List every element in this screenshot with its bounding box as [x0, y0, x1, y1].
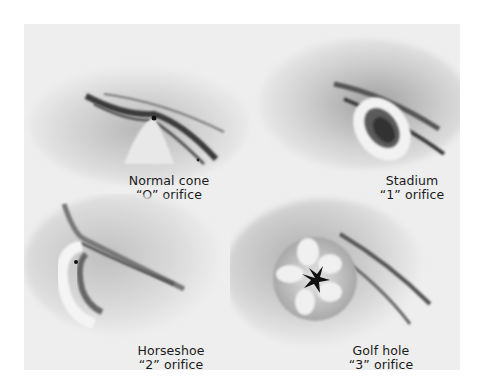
illustration-plate: Normal cone “O” orifice Stadium [24, 24, 460, 370]
panel-subtitle: “2” orifice [116, 358, 226, 370]
label-horseshoe: Horseshoe “2” orifice [116, 344, 226, 370]
panel-title: Horseshoe [116, 344, 226, 358]
panel-title: Golf hole [326, 344, 436, 358]
panel-normal-cone: Normal cone “O” orifice [24, 24, 254, 194]
panel-title: Stadium [362, 174, 460, 188]
panel-stadium: Stadium “1” orifice [234, 24, 460, 194]
panel-horseshoe: Horseshoe “2” orifice [24, 194, 254, 370]
panel-golf-hole: Golf hole “3” orifice [230, 194, 460, 370]
panel-subtitle: “3” orifice [326, 358, 436, 370]
stadium-illustration [234, 24, 460, 194]
panel-title: Normal cone [114, 174, 224, 188]
normal-cone-illustration [24, 24, 254, 194]
label-golf-hole: Golf hole “3” orifice [326, 344, 436, 370]
